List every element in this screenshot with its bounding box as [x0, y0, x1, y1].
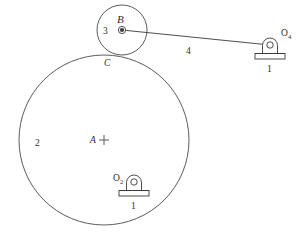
ground-support-o2: [119, 175, 149, 196]
pivot-b-joint: [118, 26, 125, 33]
label-point-a: A: [89, 135, 96, 145]
label-link-4: 4: [186, 46, 191, 56]
mechanism-diagram-svg: B 3 C 2 A 4 O 2 O 4 1 1: [0, 0, 305, 238]
label-pivot-o2: O 2: [113, 173, 123, 185]
ground-support-o4: [255, 38, 285, 59]
center-marker-a-cross: [99, 135, 109, 145]
label-point-c: C: [104, 58, 111, 68]
label-pivot-o2-base: O: [113, 173, 120, 183]
label-link-2: 2: [35, 138, 40, 148]
label-pivot-o2-sub: 2: [120, 178, 123, 185]
mechanism-diagram-canvas: B 3 C 2 A 4 O 2 O 4 1 1: [0, 0, 305, 238]
label-point-b: B: [117, 13, 124, 25]
label-link-3: 3: [103, 26, 108, 36]
label-pivot-o4-sub: 4: [288, 33, 292, 40]
label-link-1-left: 1: [131, 201, 136, 211]
label-link-1-right: 1: [267, 64, 272, 74]
label-pivot-o4-base: O: [281, 28, 288, 38]
label-pivot-o4: O 4: [281, 28, 292, 40]
connecting-rod-link4: [122, 30, 270, 45]
